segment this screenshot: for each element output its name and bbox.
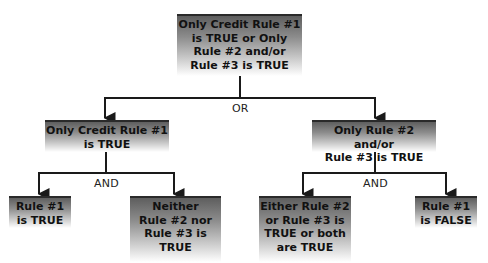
node-line: Rule #2 nor [139,214,212,228]
root-line-2: is TRUE or Only [179,32,301,46]
node-line: is TRUE [46,138,168,152]
node-line: TRUE or both [260,227,349,241]
root-line-1: Only Credit Rule #1 [179,18,301,32]
node-line: TRUE [139,241,212,255]
node-line: Rule #1 [16,200,64,214]
node-rule2-or-rule3-true: Only Rule #2 and/or Rule #3 is TRUE [312,120,436,152]
node-line: is TRUE [16,214,64,228]
and-label-left: AND [94,177,119,190]
node-line: Rule #1 [420,200,471,214]
node-line: Either Rule #2 [260,200,349,214]
root-node: Only Credit Rule #1 is TRUE or Only Rule… [177,14,302,76]
node-rule1-true: Rule #1 is TRUE [9,196,71,228]
node-line: Rule #3 is [139,227,212,241]
node-line: Neither [139,200,212,214]
or-label: OR [232,102,249,115]
node-either-rule2-or-rule3: Either Rule #2 or Rule #3 is TRUE or bot… [259,196,351,262]
node-line: Only Rule #2 and/or [312,124,436,151]
node-line: or Rule #3 is [260,214,349,228]
node-line: is FALSE [420,214,471,228]
node-credit-rule1-true: Only Credit Rule #1 is TRUE [45,120,169,152]
node-rule1-false: Rule #1 is FALSE [415,196,477,228]
node-line: Rule #3 is TRUE [312,151,436,165]
root-line-4: Rule #3 is TRUE [179,59,301,73]
node-line: are TRUE [260,241,349,255]
node-line: Only Credit Rule #1 [46,124,168,138]
and-label-right: AND [363,177,388,190]
node-neither-rule2-nor-rule3: Neither Rule #2 nor Rule #3 is TRUE [130,196,221,262]
root-line-3: Rule #2 and/or [179,45,301,59]
